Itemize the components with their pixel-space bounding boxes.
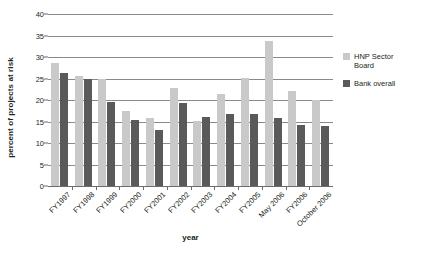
bar-group bbox=[98, 14, 115, 186]
bar-hnp-sector-board bbox=[170, 88, 178, 186]
x-axis-title: year bbox=[48, 233, 333, 242]
bar-group bbox=[170, 14, 187, 186]
chart-legend: HNP Sector BoardBank overall bbox=[343, 52, 423, 97]
bar-group bbox=[217, 14, 234, 186]
legend-swatch-icon bbox=[343, 80, 350, 87]
bar-group bbox=[193, 14, 210, 186]
bar-group bbox=[51, 14, 68, 186]
bar-chart: percent of projects at risk 051015202530… bbox=[0, 0, 424, 253]
bar-hnp-sector-board bbox=[51, 63, 59, 186]
bar-hnp-sector-board bbox=[265, 41, 273, 186]
legend-swatch-icon bbox=[343, 53, 350, 60]
bar-group bbox=[146, 14, 163, 186]
bar-group bbox=[312, 14, 329, 186]
legend-label: Bank overall bbox=[354, 79, 395, 88]
legend-entry: Bank overall bbox=[343, 79, 423, 88]
bar-bank-overall bbox=[60, 73, 68, 186]
bar-series-container bbox=[48, 14, 333, 186]
legend-label: HNP Sector Board bbox=[354, 52, 414, 70]
bar-hnp-sector-board bbox=[241, 78, 249, 186]
y-tick-label-15: 15 bbox=[4, 117, 44, 126]
bar-hnp-sector-board bbox=[98, 79, 106, 187]
bar-group bbox=[75, 14, 92, 186]
y-tick-label-5: 5 bbox=[4, 160, 44, 169]
bar-group bbox=[241, 14, 258, 186]
bar-hnp-sector-board bbox=[288, 91, 296, 186]
y-tick-label-10: 10 bbox=[4, 139, 44, 148]
x-axis-tick-labels: FY1997FY1998FY1999FY2000FY2001FY2002FY20… bbox=[48, 190, 348, 234]
plot-area bbox=[48, 14, 333, 186]
x-tick-label-text: FY1997 bbox=[47, 190, 72, 215]
bar-bank-overall bbox=[84, 79, 92, 186]
bar-group bbox=[122, 14, 139, 186]
x-tick-label-text: FY2001 bbox=[142, 190, 167, 215]
y-tick-label-35: 35 bbox=[4, 31, 44, 40]
y-axis-tick-labels: 0510152025303540 bbox=[0, 14, 44, 186]
y-tick-label-30: 30 bbox=[4, 53, 44, 62]
bar-group bbox=[265, 14, 282, 186]
x-tick-label-text: FY2004 bbox=[214, 190, 239, 215]
y-tick-label-0: 0 bbox=[4, 182, 44, 191]
bar-group bbox=[288, 14, 305, 186]
y-tick-label-25: 25 bbox=[4, 74, 44, 83]
y-tick-label-20: 20 bbox=[4, 96, 44, 105]
x-tick-label-text: FY2000 bbox=[119, 190, 144, 215]
y-tick-label-40: 40 bbox=[4, 10, 44, 19]
legend-entry: HNP Sector Board bbox=[343, 52, 423, 70]
bar-hnp-sector-board bbox=[75, 76, 83, 186]
